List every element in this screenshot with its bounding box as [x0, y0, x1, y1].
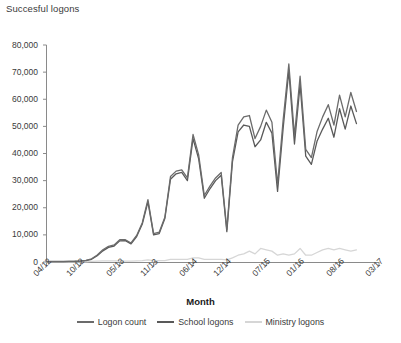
y-tick-label: 0 — [0, 257, 38, 267]
x-axis-title: Month — [0, 296, 401, 307]
y-tick-label: 70,000 — [0, 67, 38, 77]
legend-item[interactable]: School logons — [157, 317, 233, 327]
legend-label: School logons — [178, 317, 233, 327]
chart-legend: Logon countSchool logonsMinistry logons — [0, 317, 401, 327]
y-tick-marks — [43, 45, 47, 262]
legend-line-icon — [245, 321, 262, 323]
data-series-line — [47, 248, 357, 261]
y-tick-label: 10,000 — [0, 229, 38, 239]
legend-line-icon — [157, 321, 174, 323]
y-tick-label: 50,000 — [0, 121, 38, 131]
plot-area — [0, 0, 401, 343]
legend-line-icon — [77, 321, 94, 323]
legend-item[interactable]: Ministry logons — [245, 317, 325, 327]
data-series-line — [47, 71, 357, 262]
legend-item[interactable]: Logon count — [77, 317, 146, 327]
legend-label: Ministry logons — [266, 317, 325, 327]
y-tick-label: 30,000 — [0, 175, 38, 185]
y-tick-label: 20,000 — [0, 202, 38, 212]
chart-page: Succesful logons 80,00070,00060,00050,00… — [0, 0, 401, 343]
data-series-group — [47, 64, 357, 262]
y-tick-label: 60,000 — [0, 94, 38, 104]
y-tick-label: 40,000 — [0, 148, 38, 158]
y-tick-label: 80,000 — [0, 40, 38, 50]
legend-label: Logon count — [98, 317, 146, 327]
axis-lines — [47, 45, 380, 263]
